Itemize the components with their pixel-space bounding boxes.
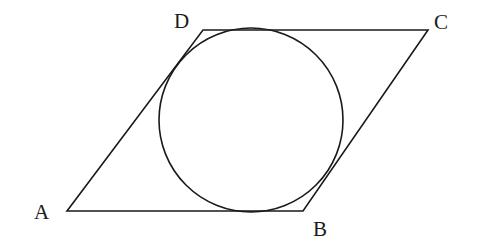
vertex-label-a: A	[34, 202, 49, 223]
inscribed-circle	[159, 28, 343, 212]
diagram-svg	[0, 0, 477, 250]
vertex-label-b: B	[313, 219, 327, 240]
vertex-label-c: C	[434, 12, 448, 33]
vertex-label-d: D	[174, 11, 189, 32]
diagram-canvas: A B C D	[0, 0, 477, 250]
parallelogram-abcd	[67, 30, 428, 211]
